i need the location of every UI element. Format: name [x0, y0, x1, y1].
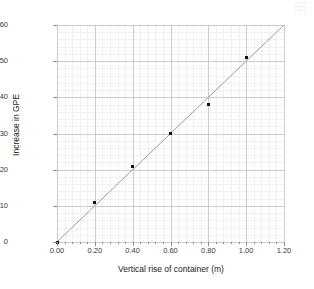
x-axis-tick-minor	[80, 242, 81, 244]
corner-artifact	[294, 2, 308, 14]
y-axis-title: Increase in GPE	[11, 65, 21, 185]
gridline-major-vertical	[284, 25, 285, 242]
data-point	[131, 165, 134, 168]
x-axis-tick-minor	[118, 242, 119, 244]
x-axis-tick-minor	[261, 242, 262, 244]
y-axis-tick	[53, 170, 57, 171]
y-tick-label: 10	[0, 202, 8, 210]
data-point	[207, 103, 210, 106]
x-tick-label: 0.20	[75, 247, 115, 255]
x-axis-tick-minor	[155, 242, 156, 244]
data-point	[245, 56, 248, 59]
x-tick-label: 0.00	[37, 247, 77, 255]
x-tick-label: 1.20	[264, 247, 304, 255]
y-axis-tick	[53, 61, 57, 62]
x-axis-tick-minor	[125, 242, 126, 244]
x-axis-tick-minor	[223, 242, 224, 244]
x-tick-label: 0.80	[188, 247, 228, 255]
x-axis-tick-minor	[140, 242, 141, 244]
x-axis-tick-minor	[110, 242, 111, 244]
data-point	[169, 132, 172, 135]
x-axis-tick-minor	[239, 242, 240, 244]
x-axis-tick-minor	[65, 242, 66, 244]
y-axis-tick	[53, 25, 57, 26]
x-axis-tick-minor	[231, 242, 232, 244]
y-tick-label: 40	[0, 93, 8, 101]
x-axis-tick-minor	[102, 242, 103, 244]
x-axis-tick-minor	[201, 242, 202, 244]
y-tick-label: 0	[4, 238, 8, 246]
x-axis-tick-minor	[269, 242, 270, 244]
data-point	[93, 201, 96, 204]
x-axis-tick-minor	[163, 242, 164, 244]
x-axis-tick-minor	[276, 242, 277, 244]
x-axis-tick-minor	[178, 242, 179, 244]
y-axis-tick	[53, 206, 57, 207]
y-tick-label: 20	[0, 166, 8, 174]
x-tick-label: 0.60	[151, 247, 191, 255]
y-tick-label: 60	[0, 21, 8, 29]
x-axis-tick-minor	[148, 242, 149, 244]
scatter-chart-figure: 0102030405060 0.000.200.400.600.801.001.…	[0, 0, 314, 289]
x-axis-tick-minor	[216, 242, 217, 244]
x-axis-tick-minor	[186, 242, 187, 244]
x-axis-tick-minor	[193, 242, 194, 244]
y-tick-label: 30	[0, 130, 8, 138]
y-tick-label: 50	[0, 57, 8, 65]
y-axis-tick	[53, 97, 57, 98]
x-axis-tick-minor	[72, 242, 73, 244]
plot-area	[57, 25, 284, 242]
x-axis-title: Vertical rise of container (m)	[57, 264, 285, 274]
x-axis-tick-minor	[254, 242, 255, 244]
x-tick-label: 0.40	[113, 247, 153, 255]
x-tick-label: 1.00	[226, 247, 266, 255]
x-axis-tick-minor	[87, 242, 88, 244]
y-axis-tick	[53, 134, 57, 135]
